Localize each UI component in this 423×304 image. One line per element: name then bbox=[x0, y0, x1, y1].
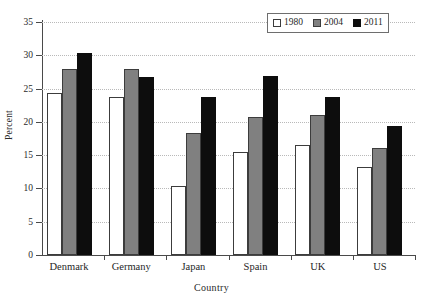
bar bbox=[372, 148, 387, 255]
bar bbox=[201, 97, 216, 255]
chart-legend: 198020042011 bbox=[267, 13, 389, 33]
y-tick-label: 5 bbox=[8, 217, 33, 227]
legend-label: 1980 bbox=[284, 18, 303, 28]
gridline bbox=[42, 55, 415, 56]
legend-label: 2004 bbox=[324, 18, 343, 28]
y-tick-label: 35 bbox=[8, 17, 33, 27]
gray-square-icon bbox=[313, 19, 321, 27]
y-tick-label: 25 bbox=[8, 84, 33, 94]
plot-area bbox=[42, 22, 415, 255]
bar bbox=[248, 117, 263, 255]
bar bbox=[310, 115, 325, 255]
x-tick-mark bbox=[229, 255, 230, 260]
bar bbox=[295, 145, 310, 256]
x-axis-label: Denmark bbox=[50, 261, 89, 272]
white-square-icon bbox=[273, 19, 281, 27]
bar bbox=[139, 77, 154, 255]
legend-item: 2004 bbox=[313, 18, 343, 28]
bar bbox=[47, 93, 62, 255]
x-tick-mark bbox=[166, 255, 167, 260]
gridline bbox=[42, 122, 415, 123]
bar bbox=[109, 97, 124, 255]
bar bbox=[186, 133, 201, 255]
x-axis-label: UK bbox=[310, 261, 325, 272]
bar bbox=[124, 69, 139, 255]
y-tick-label: 20 bbox=[8, 117, 33, 127]
y-tick-label: 10 bbox=[8, 183, 33, 193]
x-tick-mark bbox=[353, 255, 354, 260]
x-axis-label: Germany bbox=[112, 261, 151, 272]
bar bbox=[263, 76, 278, 255]
y-tick-mark bbox=[36, 255, 42, 256]
legend-item: 1980 bbox=[273, 18, 303, 28]
x-axis-label: US bbox=[373, 261, 386, 272]
bar bbox=[357, 167, 372, 255]
bar bbox=[62, 69, 77, 255]
gridline bbox=[42, 155, 415, 156]
y-tick-label: 30 bbox=[8, 50, 33, 60]
x-tick-mark bbox=[415, 255, 416, 260]
gridline bbox=[42, 89, 415, 90]
bar bbox=[77, 53, 92, 255]
x-tick-mark bbox=[104, 255, 105, 260]
bar bbox=[325, 97, 340, 255]
x-axis-label: Japan bbox=[181, 261, 205, 272]
bar-chart: Percent 05101520253035 DenmarkGermanyJap… bbox=[0, 0, 423, 304]
bar bbox=[233, 152, 248, 255]
bar bbox=[171, 186, 186, 255]
y-tick-label: 0 bbox=[8, 250, 33, 260]
legend-item: 2011 bbox=[353, 18, 383, 28]
legend-label: 2011 bbox=[364, 18, 383, 28]
x-tick-mark bbox=[291, 255, 292, 260]
black-square-icon bbox=[353, 19, 361, 27]
x-axis-label: Spain bbox=[244, 261, 268, 272]
bar bbox=[387, 126, 402, 255]
y-tick-label: 15 bbox=[8, 150, 33, 160]
x-axis-title: Country bbox=[0, 282, 423, 293]
